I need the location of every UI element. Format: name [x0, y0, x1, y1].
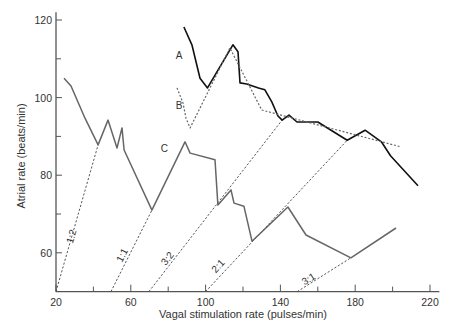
x-tick-label: 220: [421, 296, 439, 308]
series-B-label: B: [176, 100, 183, 111]
x-tick-label: 140: [272, 296, 290, 308]
series-A-label: A: [176, 50, 183, 61]
ratio-label-1-1: 1:1: [114, 246, 130, 264]
series-C-line: [64, 78, 396, 258]
x-tick-label: 20: [50, 296, 62, 308]
ratio-line-2-1: [206, 140, 348, 291]
y-tick-label: 120: [34, 14, 52, 26]
y-tick-label: 100: [34, 92, 52, 104]
axes: 20601001401802206080100120: [34, 12, 439, 307]
y-axis-title: Atrial rate (beats/min): [15, 103, 27, 208]
chart: 20601001401802206080100120 1:21:13:22:13…: [0, 0, 463, 334]
ratio-label-3-2: 3:2: [159, 249, 176, 267]
x-axis-title: Vagal stimulation rate (pulses/min): [159, 308, 327, 320]
x-tick-label: 100: [197, 296, 215, 308]
y-tick-label: 60: [40, 247, 52, 259]
series: ABC: [64, 27, 418, 258]
series-A-line: [184, 27, 418, 186]
ratio-label-3-1: 3:1: [300, 270, 318, 287]
x-tick-label: 180: [346, 296, 364, 308]
series-C-label: C: [161, 143, 168, 154]
ratio-line-1-2: [56, 145, 98, 292]
x-tick-label: 60: [125, 296, 137, 308]
ratio-label-1-2: 1:2: [64, 228, 79, 245]
y-tick-label: 80: [40, 169, 52, 181]
ratio-label-2-1: 2:1: [209, 257, 227, 275]
ratio-lines: 1:21:13:22:13:1: [56, 120, 351, 291]
